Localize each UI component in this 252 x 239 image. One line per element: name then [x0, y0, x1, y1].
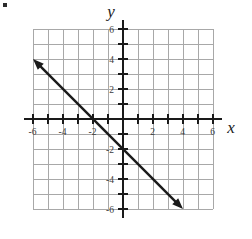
x-tick-label: -2 [89, 127, 97, 137]
y-tick-label: 4 [109, 55, 114, 65]
coordinate-plane-svg: -6-4-2246642-2-4-6xy [0, 0, 252, 239]
x-tick-label: -4 [59, 127, 67, 137]
y-tick-label: -2 [106, 145, 114, 155]
x-axis-label: x [226, 118, 235, 137]
graph-canvas: -6-4-2246642-2-4-6xy [0, 0, 252, 239]
y-tick-label: -4 [106, 175, 114, 185]
x-tick-label: 2 [150, 127, 155, 137]
y-tick-label: 6 [109, 25, 114, 35]
y-tick-label: -6 [106, 205, 114, 215]
axes [24, 20, 222, 218]
y-tick-label: 2 [109, 85, 114, 95]
x-tick-label: 4 [180, 127, 185, 137]
y-axis-label: y [105, 2, 115, 21]
x-tick-label: 6 [210, 127, 215, 137]
x-tick-label: -6 [29, 127, 37, 137]
